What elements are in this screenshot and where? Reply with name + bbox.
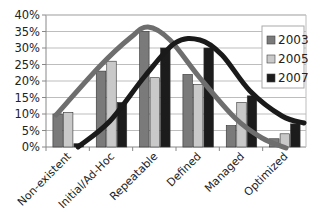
maturity-chart: 0%5%10%15%20%25%30%35%40% Non-existentIn… [0, 0, 332, 224]
x-tick-label: Managed [202, 150, 247, 195]
legend-label: 2007 [278, 71, 309, 85]
bar-2005 [107, 61, 117, 147]
bar-2007 [204, 48, 214, 147]
bar-2003 [183, 74, 193, 147]
legend: 200320052007 [262, 26, 309, 88]
y-tick-label: 10% [14, 107, 40, 121]
bar-2007 [161, 48, 171, 147]
y-tick-label: 15% [14, 91, 40, 105]
legend-label: 2003 [278, 33, 309, 47]
x-tick-label: Defined [164, 150, 204, 190]
x-tick-label: Optimized [241, 150, 290, 199]
bar-2003 [226, 126, 236, 147]
y-tick-label: 25% [14, 58, 40, 72]
y-tick-label: 35% [14, 25, 40, 39]
bar-2003 [96, 71, 106, 147]
y-tick-label: 0% [22, 140, 40, 154]
y-tick-label: 30% [14, 41, 40, 55]
legend-swatch-2005 [267, 55, 275, 63]
x-axis: Non-existentInitial/Ad-HocRepeatableDefi… [15, 149, 290, 211]
bar-2005 [193, 84, 203, 147]
bar-2003 [53, 114, 63, 147]
y-tick-label: 40% [14, 8, 40, 22]
bar-2005 [150, 78, 160, 147]
y-tick-label: 5% [22, 124, 40, 138]
bar-2007 [291, 124, 301, 147]
y-tick-label: 20% [14, 74, 40, 88]
bar-2003 [140, 32, 150, 148]
bar-2007 [247, 96, 257, 147]
legend-label: 2005 [278, 52, 309, 66]
bar-2005 [63, 112, 73, 147]
legend-swatch-2007 [267, 74, 275, 82]
legend-swatch-2003 [267, 36, 275, 44]
